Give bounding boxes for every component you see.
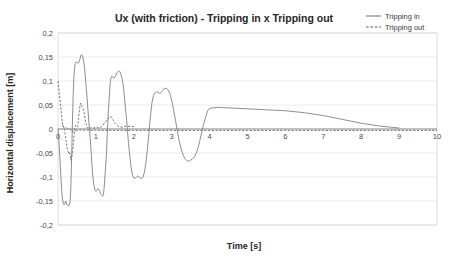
x-tick-label-1: 1 [94,132,98,141]
x-tick-label-9: 9 [397,132,401,141]
x-tick-label-5: 5 [245,132,249,141]
y-tick-label-8: -0,2 [40,221,53,230]
x-tick-label-2: 2 [132,132,136,141]
legend-label-0: Tripping in [385,12,420,21]
x-axis-title: Time [s] [227,241,261,251]
y-tick-label-3: 0,05 [38,101,53,110]
x-tick-label-4: 4 [208,132,212,141]
y-tick-label-2: 0,1 [43,77,53,86]
chart-canvas: Ux (with friction) - Tripping in x Tripp… [0,0,449,263]
y-tick-label-6: -0,1 [40,173,53,182]
y-tick-label-1: 0,15 [38,53,53,62]
chart-title: Ux (with friction) - Tripping in x Tripp… [115,12,334,24]
y-tick-label-4: 0 [49,125,53,134]
x-tick-label-8: 8 [359,132,363,141]
x-tick-label-10: 10 [433,132,441,141]
y-tick-label-7: -0,15 [36,197,53,206]
x-tick-label-7: 7 [321,132,325,141]
y-tick-label-5: -0,05 [36,149,53,158]
legend-label-1: Tripping out [385,23,425,32]
x-tick-label-3: 3 [170,132,174,141]
y-tick-label-0: 0,2 [43,29,53,38]
chart-background [0,0,449,263]
y-axis-title: Horizontal displacement [m] [5,73,15,194]
x-tick-label-6: 6 [283,132,287,141]
chart-container: Ux (with friction) - Tripping in x Tripp… [0,0,449,263]
